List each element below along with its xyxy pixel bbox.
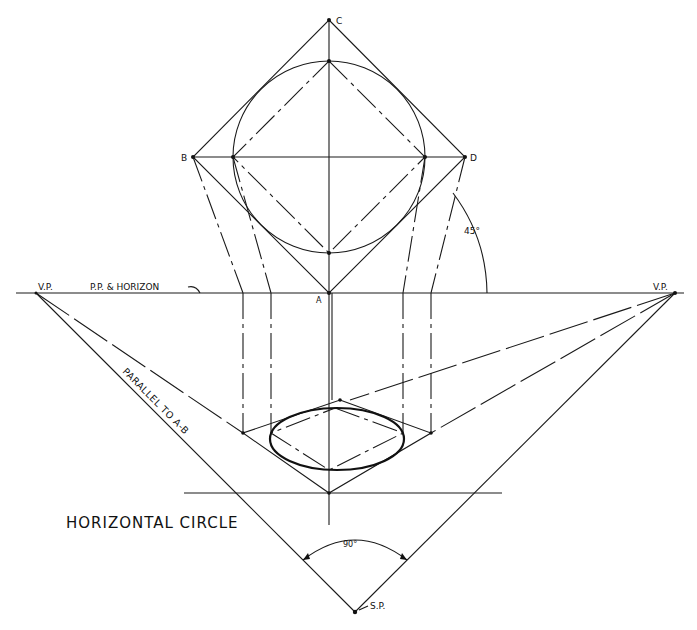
label-a: A — [316, 296, 322, 305]
angle-90-indicator: 90° — [303, 540, 407, 560]
label-vp-left: V.P. — [38, 282, 53, 292]
label-c: C — [336, 16, 342, 26]
svg-text:45°: 45° — [464, 226, 480, 236]
vanishing-lines — [36, 293, 675, 612]
angle-45-indicator: 45° — [453, 193, 487, 293]
label-b: B — [181, 153, 187, 163]
svg-text:S.P.: S.P. — [370, 601, 385, 611]
figure-title: HORIZONTAL CIRCLE — [66, 514, 239, 532]
station-point: S.P. — [353, 601, 386, 614]
plan-view — [191, 18, 467, 295]
perspective-view — [241, 398, 433, 495]
label-parallel: PARALLEL TO A-B — [121, 366, 192, 437]
perspective-drawing: 45° 90° S.P. C B — [0, 0, 697, 630]
label-vp-right: V.P. — [653, 282, 668, 292]
label-horizon: P.P. & HORIZON — [90, 282, 159, 292]
svg-text:90°: 90° — [343, 540, 357, 549]
label-d: D — [470, 153, 477, 163]
perspective-ellipse — [270, 408, 404, 470]
